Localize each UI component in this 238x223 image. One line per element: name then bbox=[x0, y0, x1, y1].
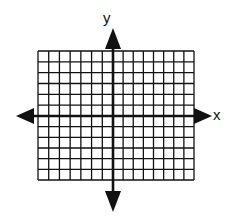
arrow-up-icon bbox=[105, 28, 121, 49]
arrow-right-icon bbox=[194, 108, 212, 124]
y-axis-label: y bbox=[103, 10, 111, 25]
x-axis-label: x bbox=[213, 107, 221, 122]
arrow-down-icon bbox=[105, 191, 121, 212]
arrow-left-icon bbox=[16, 108, 34, 124]
coordinate-plane bbox=[0, 0, 238, 223]
axes bbox=[16, 28, 212, 212]
